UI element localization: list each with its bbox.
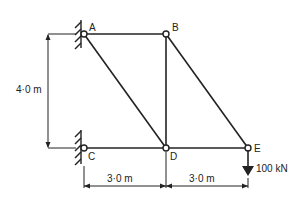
joint-c-icon [81,145,87,151]
load-arrow-icon [242,150,254,176]
span-de-label: 3·0 m [189,173,215,184]
span-cd-label: 3·0 m [107,173,133,184]
node-label-d: D [170,151,177,162]
height-label: 4·0 m [16,84,42,95]
joint-d-icon [163,145,169,151]
node-label-b: B [172,22,179,33]
load-label: 100 kN [256,163,288,174]
member-ad [84,34,166,148]
node-label-a: A [89,22,96,33]
node-label-e: E [254,143,261,154]
truss-diagram: A B C D E 100 kN 4·0 m 3·0 m 3·0 m [0,0,301,198]
member-be [166,34,248,148]
joint-a-icon [81,31,87,37]
node-label-c: C [88,151,95,162]
height-dimension [46,34,77,148]
joint-b-icon [163,31,169,37]
